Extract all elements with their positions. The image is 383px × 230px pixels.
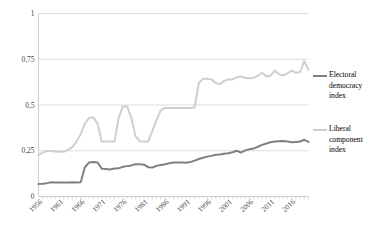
chart-container: 00,250,50,751195619611966197119761981198… — [0, 0, 383, 230]
x-tick-label: 2011 — [259, 197, 276, 214]
x-tick-label: 2001 — [217, 197, 234, 214]
legend-swatch-electoral-democracy-index — [313, 75, 327, 77]
x-tick-label-group: 1971 — [90, 197, 107, 214]
x-tick-label-group: 1976 — [111, 197, 128, 214]
x-tick-label: 1971 — [90, 197, 107, 214]
legend-label-line: Liberal — [329, 124, 363, 135]
x-tick-label: 2016 — [280, 197, 297, 214]
x-tick-label-group: 1961 — [48, 197, 65, 214]
y-tick-label: 1 — [31, 9, 35, 18]
x-tick-label: 1991 — [175, 197, 192, 214]
series-line-electoral-democracy-index — [39, 140, 309, 184]
legend-label-line: component — [329, 135, 363, 146]
x-tick-label-group: 1966 — [69, 197, 86, 214]
y-tick-label: 0,5 — [25, 101, 35, 110]
legend-item-liberal-component-index[interactable]: Liberal component index — [313, 124, 383, 166]
legend-item-electoral-democracy-index[interactable]: Electoral democracy index — [313, 70, 383, 112]
x-tick-label: 1956 — [27, 197, 44, 214]
x-tick-label-group: 2016 — [280, 197, 297, 214]
legend-label-line: index — [329, 91, 362, 102]
legend-label-line: index — [329, 145, 363, 156]
legend-label-line: democracy — [329, 81, 362, 92]
x-tick-label: 1986 — [154, 197, 171, 214]
x-tick-label-group: 1996 — [196, 197, 213, 214]
x-tick-label-group: 1956 — [27, 197, 44, 214]
x-tick-label: 1976 — [111, 197, 128, 214]
x-tick-label: 1961 — [48, 197, 65, 214]
x-tick-label-group: 1986 — [154, 197, 171, 214]
x-tick-label: 2006 — [238, 197, 255, 214]
y-tick-label: 0,75 — [22, 55, 35, 64]
legend-swatch-liberal-component-index — [313, 129, 327, 131]
x-tick-label: 1996 — [196, 197, 213, 214]
x-tick-label-group: 1981 — [133, 197, 150, 214]
legend-label-line: Electoral — [329, 70, 362, 81]
series-line-liberal-component-index — [39, 61, 309, 155]
x-tick-label: 1981 — [133, 197, 150, 214]
x-tick-label-group: 2006 — [238, 197, 255, 214]
x-tick-label-group: 2011 — [259, 197, 276, 214]
x-tick-label-group: 1991 — [175, 197, 192, 214]
y-tick-label: 0,25 — [22, 146, 35, 155]
x-tick-label: 1966 — [69, 197, 86, 214]
legend: Electoral democracy index Liberal compon… — [313, 70, 383, 166]
x-tick-label-group: 2001 — [217, 197, 234, 214]
